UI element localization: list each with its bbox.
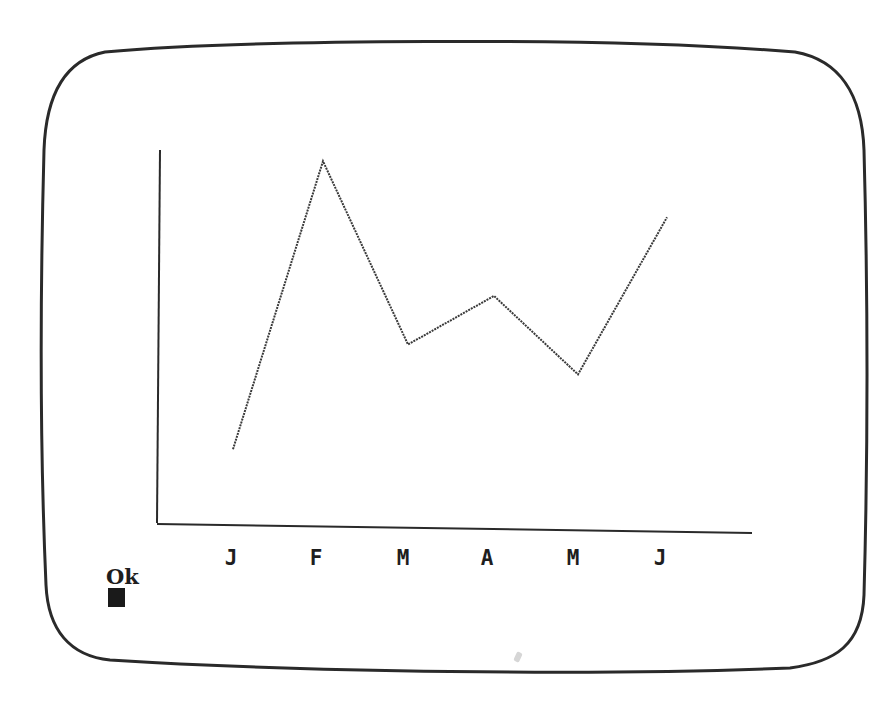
ok-prompt: Ok (106, 564, 139, 589)
x-label-may: M (558, 546, 588, 570)
x-axis (157, 524, 752, 533)
crt-bezel-outline (41, 41, 867, 672)
block-cursor-icon[interactable] (108, 588, 125, 607)
x-label-jun: J (645, 546, 675, 570)
data-line (233, 161, 667, 449)
crt-screen (0, 0, 896, 706)
x-label-apr: A (472, 546, 502, 570)
x-label-feb: F (301, 546, 331, 570)
y-axis (157, 150, 160, 523)
x-label-mar: M (388, 546, 418, 570)
x-label-jan: J (216, 546, 246, 570)
